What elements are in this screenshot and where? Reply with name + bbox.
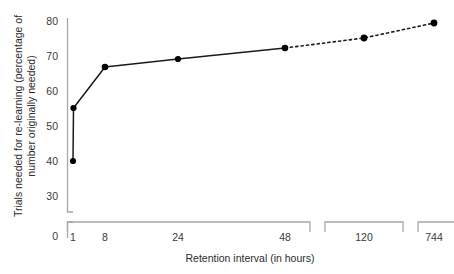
chart-figure: Trials needed for re-learning (percentag… [0,0,454,274]
y-axis-break-stub [68,222,74,238]
data-point-1hr [70,158,76,164]
plot-area [0,0,454,274]
x-axis-segment-1 [68,222,311,232]
data-markers [70,20,438,165]
data-point-48hr [282,45,289,52]
y-axis-spine [68,18,74,212]
data-point-24hr [175,56,181,62]
data-point-120hr [361,35,368,42]
x-axis-segment-3 [418,222,454,232]
data-point-8hr [102,64,109,71]
data-point-744hr [431,20,438,27]
data-point-1hr-b [70,105,76,111]
x-axis-segment-2 [325,222,403,232]
data-line-dotted [285,23,434,48]
